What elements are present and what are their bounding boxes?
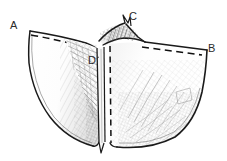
figure-label-a: A — [10, 20, 18, 31]
right-panel — [108, 42, 208, 150]
central-ridge — [97, 46, 111, 153]
figure-label-c: C — [129, 11, 137, 22]
figure-container: A C B D — [0, 0, 227, 161]
figure-label-d: D — [88, 55, 96, 66]
line-drawing-illustration — [0, 0, 227, 161]
figure-label-b: B — [208, 43, 216, 54]
